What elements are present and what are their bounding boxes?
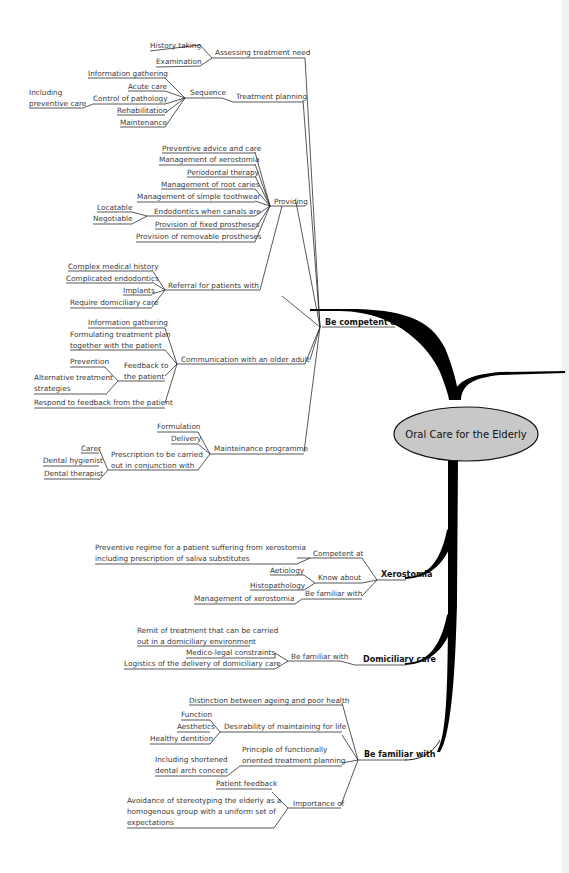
- node-mgmt-xero: Management of xerostomia: [194, 594, 294, 603]
- node-communication: Communication with an older adult: [181, 355, 310, 364]
- node-logistics: Logistics of the delivery of domiciliary…: [124, 659, 281, 668]
- node-xero-familiar: Be familiar with: [305, 589, 362, 598]
- node-dental-hygienist: Dental hygienist: [43, 456, 103, 465]
- node-including-preventive: Includingpreventive care: [29, 88, 87, 108]
- node-formulating-2: together with the patient: [70, 341, 162, 350]
- branch-label-familiar: Be familiar with: [364, 750, 436, 759]
- node-principle-1: Principle of functionally: [242, 745, 328, 754]
- node-endodontics: Endodontics when canals are: [154, 207, 261, 216]
- node-function: Function: [181, 710, 212, 719]
- node-patient-feedback: Patient feedback: [216, 779, 278, 788]
- branch-label-domiciliary: Domiciliary care: [363, 655, 437, 664]
- node-toothwear: Management of simple toothwear: [137, 192, 260, 201]
- node-locatable: Locatable: [97, 203, 133, 212]
- node-know-about: Know about: [318, 573, 361, 582]
- node-medico-legal: Medico-legal constraints: [186, 648, 275, 657]
- node-importance: Importance of: [293, 799, 345, 808]
- node-prescription-1: Prescription to be carried: [111, 450, 203, 459]
- node-remit-1: Remit of treatment that can be carried: [137, 626, 278, 635]
- node-distinction: Distinction between ageing and poor heal…: [189, 696, 349, 705]
- node-xero-preventive-2: including prescription of saliva substit…: [95, 554, 250, 563]
- node-formulating-1: Formulating treatment plan: [70, 330, 171, 339]
- node-formulation: Formulation: [157, 422, 200, 431]
- mind-map: Oral Care for the Elderly Be competent a…: [0, 0, 569, 873]
- node-removable-prostheses: Provision of removable prostheses: [136, 232, 262, 241]
- node-shortened-arch-2: dental arch concept: [155, 766, 228, 775]
- node-carer: Carer: [81, 444, 101, 453]
- node-fixed-prostheses: Provision of fixed prostheses: [155, 220, 260, 229]
- node-acute-care: Acute care: [128, 82, 167, 91]
- node-prevention: Prevention: [70, 357, 109, 366]
- node-feedback-1: Feedback to: [124, 361, 169, 370]
- node-providing: Providing: [274, 197, 308, 206]
- node-histopathology: Histopathology: [250, 581, 306, 590]
- node-treatment-planning: Treatment planning: [235, 92, 307, 101]
- node-aetiology: Aetiology: [270, 566, 305, 575]
- node-delivery: Delivery: [171, 434, 202, 443]
- node-xero-preventive-1: Preventive regime for a patient sufferin…: [95, 543, 306, 552]
- node-avoidance-2: homogenous group with a uniform set of: [127, 807, 276, 816]
- node-alt-treatment-1: Alternative treatment: [34, 373, 113, 382]
- node-root-caries: Management of root caries: [161, 180, 260, 189]
- node-implants: Implants: [123, 286, 155, 295]
- branch-right: [452, 371, 565, 400]
- node-avoidance-3: expectations: [127, 818, 174, 827]
- node-principle-2: oriented treatment planning: [242, 756, 346, 765]
- node-maintenance-programme: Mainteinance programme: [214, 444, 309, 453]
- node-avoidance-1: Avoidance of stereotyping the elderly as…: [127, 796, 281, 805]
- node-domiciliary-care: Require domiciliary care: [70, 298, 159, 307]
- node-domic-familiar: Be familiar with: [291, 652, 348, 661]
- node-control-pathology: Control of pathology: [93, 94, 168, 103]
- node-complicated-endo: Complicated endodontics: [66, 274, 159, 283]
- branch-label-xerostomia: Xerostomia: [381, 570, 432, 579]
- node-sequence: Sequence: [190, 88, 227, 97]
- node-shortened-arch-1: Including shortened: [155, 755, 228, 764]
- node-xero-competent: Competent at: [313, 549, 363, 558]
- node-information-gathering: Information gathering: [88, 69, 168, 78]
- node-periodontal: Periodontal therapy: [187, 168, 260, 177]
- branch-trunk-down: [437, 458, 458, 752]
- node-alt-treatment-2: strategies: [34, 384, 71, 393]
- node-respond-feedback: Respond to feedback from the patient: [34, 398, 173, 407]
- node-preventive-advice: Preventive advice and care: [162, 144, 262, 153]
- node-maintenance: Maintenance: [120, 118, 168, 127]
- node-prescription-2: out in conjunction with: [111, 461, 194, 470]
- node-mgmt-xerostomia: Management of xerostomia: [159, 155, 259, 164]
- node-examination: Examination: [156, 57, 202, 66]
- node-complex-medical: Complex medical history: [68, 262, 159, 271]
- node-healthy-dentition: Healthy dentition: [150, 734, 213, 743]
- node-negotiable: Negotiable: [93, 214, 133, 223]
- node-remit-2: out in a domiciliary environment: [137, 637, 256, 646]
- node-feedback-2: the patient: [124, 372, 164, 381]
- node-dental-therapist: Dental therapist: [44, 469, 103, 478]
- node-referral: Referral for patients with: [168, 281, 259, 290]
- central-topic: Oral Care for the Elderly: [405, 429, 526, 440]
- node-desirability: Desirability of maintaining for life: [224, 722, 347, 731]
- node-aesthetics: Aesthetics: [177, 722, 215, 731]
- node-rehabilitation: Rehabilitation: [117, 106, 167, 115]
- node-comm-info-gathering: Information gathering: [88, 318, 168, 327]
- node-assessing: Assessing treatment need: [215, 48, 310, 57]
- branch-label-competent: Be competent at: [325, 318, 400, 327]
